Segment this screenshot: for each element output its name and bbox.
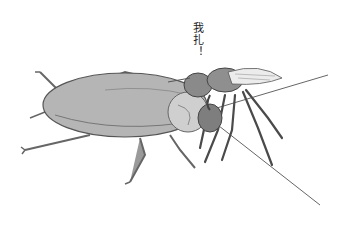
cockroach-antennae xyxy=(205,75,328,205)
illustration xyxy=(0,0,349,226)
speech-caption: 我扎！ xyxy=(190,22,204,58)
cockroach-body xyxy=(43,73,208,137)
wasp-wings xyxy=(228,68,282,84)
